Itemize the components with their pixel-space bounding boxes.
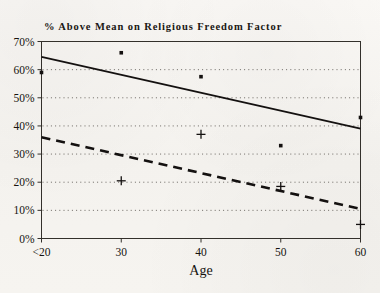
- trend-line-solid: [42, 57, 361, 129]
- y-tick-label-70: 70%: [13, 36, 35, 48]
- trend-line-dashed: [42, 137, 361, 209]
- data-point-square: [40, 71, 44, 75]
- y-tick-label-50: 50%: [13, 92, 35, 104]
- y-tick-label-60: 60%: [13, 64, 35, 76]
- data-point-plus: [356, 220, 365, 229]
- x-tick-label-30: 30: [116, 246, 128, 258]
- x-tick-label-50: 50: [275, 246, 287, 258]
- data-point-plus: [117, 176, 126, 185]
- y-tick-label-10: 10%: [13, 204, 35, 216]
- data-point-plus: [197, 130, 206, 139]
- x-axis-title: Age: [189, 263, 212, 278]
- y-tick-label-20: 20%: [13, 176, 35, 188]
- x-axis-tick-labels: <2030405060: [33, 246, 367, 258]
- x-tick-label-60: 60: [355, 246, 367, 258]
- data-point-square: [119, 51, 123, 55]
- x-tick-label-40: 40: [195, 246, 207, 258]
- y-tick-label-40: 40%: [13, 120, 35, 132]
- y-axis-tick-labels: 0%10%20%30%40%50%60%70%: [13, 36, 35, 245]
- data-point-square: [359, 116, 363, 120]
- y-tick-label-0: 0%: [19, 233, 35, 245]
- chart-figure: % Above Mean on Religious Freedom Factor…: [0, 0, 380, 293]
- gridlines: [43, 70, 360, 211]
- x-tick-label-20: <20: [33, 246, 51, 258]
- x-axis-ticks: [42, 239, 361, 243]
- data-point-square: [199, 75, 203, 79]
- plot-frame: [42, 42, 361, 239]
- data-point-square: [279, 144, 283, 148]
- y-tick-label-30: 30%: [13, 148, 35, 160]
- data-markers: [40, 51, 365, 229]
- plot-area: 0%10%20%30%40%50%60%70% <2030405060 Age: [0, 0, 380, 293]
